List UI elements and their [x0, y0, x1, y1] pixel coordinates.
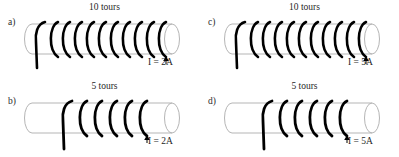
- lead-wire-c: [236, 22, 245, 68]
- current-label-b: I = 2A: [148, 136, 173, 146]
- panel-a: 10 tours a): [0, 0, 199, 78]
- cylinder-b: [25, 103, 180, 133]
- cylinder-c: [225, 24, 380, 54]
- panel-c: 10 tours c): [200, 0, 399, 78]
- cylinder-d: [225, 103, 380, 133]
- panel-d: 5 tours d) I = 5A: [200, 79, 399, 157]
- current-label-c: I = 5A: [348, 57, 373, 67]
- panel-b: 5 tours b) I = 2A: [0, 79, 199, 157]
- current-label-d: I = 5A: [348, 136, 373, 146]
- coil-turns-a: [51, 22, 166, 57]
- coil-turns-b: [80, 101, 147, 136]
- coil-turns-c: [251, 22, 366, 57]
- cylinder-a: [25, 24, 180, 54]
- lead-wire-d: [263, 101, 272, 149]
- solenoid-figure: 10 tours a): [0, 0, 399, 157]
- lead-wire-b: [63, 101, 72, 149]
- current-label-a: I = 2A: [148, 57, 173, 67]
- coil-turns-d: [280, 101, 347, 136]
- lead-wire-a: [36, 22, 45, 68]
